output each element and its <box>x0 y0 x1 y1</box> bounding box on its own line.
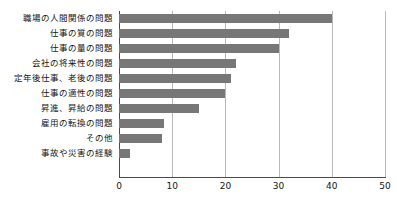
bar <box>119 59 236 68</box>
bar-row <box>119 131 385 146</box>
bar-row <box>119 71 385 86</box>
category-axis-labels: 職場の人間関係の問題仕事の質の問題仕事の量の問題会社の将来性の問題定年後仕事、老… <box>0 11 113 177</box>
bar <box>119 44 279 53</box>
bar <box>119 89 225 98</box>
bar <box>119 74 231 83</box>
category-label: 職場の人間関係の問題 <box>0 11 113 26</box>
bar-series <box>119 11 385 177</box>
bar <box>119 149 130 158</box>
x-tick-label: 20 <box>220 181 231 192</box>
bar-row <box>119 146 385 161</box>
category-label: その他 <box>0 131 113 146</box>
x-tick-label: 10 <box>166 181 177 192</box>
x-tick-label: 50 <box>379 181 390 192</box>
bar <box>119 104 199 113</box>
bar-chart: 職場の人間関係の問題仕事の質の問題仕事の量の問題会社の将来性の問題定年後仕事、老… <box>0 0 397 211</box>
bar <box>119 29 289 38</box>
category-label: 定年後仕事、老後の問題 <box>0 71 113 86</box>
bar-row <box>119 101 385 116</box>
plot-area <box>119 11 385 177</box>
bar <box>119 119 164 128</box>
category-label: 事故や災害の経験 <box>0 146 113 161</box>
bar-row <box>119 41 385 56</box>
bar-row <box>119 116 385 131</box>
category-label: 昇進、昇給の問題 <box>0 101 113 116</box>
bar-row <box>119 26 385 41</box>
bar <box>119 14 332 23</box>
bar-row <box>119 86 385 101</box>
category-label: 雇用の転換の問題 <box>0 116 113 131</box>
bar-row <box>119 56 385 71</box>
category-label: 仕事の質の問題 <box>0 26 113 41</box>
x-tick-label: 40 <box>326 181 337 192</box>
x-tick-label: 0 <box>116 181 122 192</box>
bar <box>119 134 162 143</box>
category-label: 仕事の量の問題 <box>0 41 113 56</box>
category-axis-line <box>119 177 386 178</box>
category-label: 仕事の適性の問題 <box>0 86 113 101</box>
gridline-50 <box>385 11 386 177</box>
x-tick-label: 30 <box>273 181 284 192</box>
bar-row <box>119 11 385 26</box>
category-label: 会社の将来性の問題 <box>0 56 113 71</box>
